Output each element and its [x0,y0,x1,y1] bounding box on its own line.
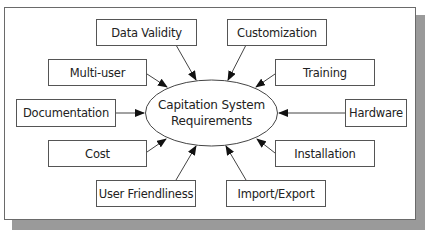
node-cost: Cost [48,140,147,167]
node-import-export: Import/Export [226,180,326,207]
node-documentation: Documentation [16,99,116,127]
node-hardware: Hardware [345,99,407,127]
node-data-validity: Data Validity [96,19,197,46]
node-multi-user: Multi-user [48,59,147,86]
center-node-label: Capitation System Requirements [145,80,278,146]
node-user-friendliness: User Friendliness [96,180,196,207]
node-training: Training [275,59,375,86]
node-installation: Installation [275,140,375,167]
center-line-2: Requirements [171,113,252,129]
center-line-1: Capitation System [158,97,265,113]
node-customization: Customization [227,19,327,46]
